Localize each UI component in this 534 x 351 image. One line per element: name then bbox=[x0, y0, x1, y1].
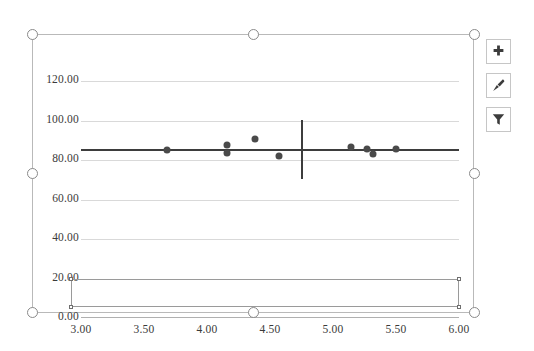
data-point[interactable] bbox=[251, 136, 258, 143]
x-axis-tick-labels: 3.003.504.004.505.005.506.00 bbox=[81, 323, 459, 339]
x-axis-tick-label: 6.00 bbox=[449, 323, 470, 335]
handle-top-left[interactable] bbox=[27, 29, 38, 40]
data-point[interactable] bbox=[347, 143, 354, 150]
handle-top-center[interactable] bbox=[248, 29, 259, 40]
axis-handle-top-left[interactable] bbox=[69, 277, 73, 281]
x-axis-tick-label: 4.00 bbox=[197, 323, 218, 335]
y-axis-tick-label: 40.00 bbox=[52, 231, 79, 243]
data-point[interactable] bbox=[275, 153, 282, 160]
x-axis-line[interactable] bbox=[81, 317, 459, 318]
x-axis-tick-label: 5.50 bbox=[386, 323, 407, 335]
screenshot-stage: 0.0020.0040.0060.0080.00100.00120.00 3.0… bbox=[0, 0, 534, 351]
y-axis-tick-label: 60.00 bbox=[52, 192, 79, 204]
x-axis-tick-label: 4.50 bbox=[260, 323, 281, 335]
axis-handle-bottom-right[interactable] bbox=[457, 305, 461, 309]
chart-filters-button[interactable] bbox=[486, 107, 511, 132]
gridline bbox=[81, 160, 459, 161]
handle-middle-left[interactable] bbox=[27, 168, 38, 179]
y-axis-tick-label: 120.00 bbox=[46, 73, 79, 85]
x-axis-tick-label: 3.00 bbox=[71, 323, 92, 335]
handle-bottom-right[interactable] bbox=[469, 307, 480, 318]
data-point[interactable] bbox=[224, 150, 231, 157]
chart-side-buttons[interactable] bbox=[486, 39, 512, 141]
data-point[interactable] bbox=[370, 151, 377, 158]
axis-handle-top-right[interactable] bbox=[457, 277, 461, 281]
data-point[interactable] bbox=[393, 145, 400, 152]
y-axis-tick-labels: 0.0020.0040.0060.0080.00100.00120.00 bbox=[1, 81, 79, 318]
x-axis-tick-label: 3.50 bbox=[134, 323, 155, 335]
paintbrush-icon bbox=[491, 78, 506, 93]
axis-handle-bottom-left[interactable] bbox=[69, 305, 73, 309]
y-axis-tick-label: 100.00 bbox=[46, 113, 79, 125]
data-point[interactable] bbox=[224, 141, 231, 148]
gridline bbox=[81, 200, 459, 201]
x-axis-tick-label: 5.00 bbox=[323, 323, 344, 335]
gridline bbox=[81, 81, 459, 82]
funnel-filter-icon bbox=[491, 112, 506, 127]
trendline[interactable] bbox=[81, 149, 459, 151]
chart-object-frame[interactable]: 0.0020.0040.0060.0080.00100.00120.00 3.0… bbox=[32, 34, 474, 313]
data-point[interactable] bbox=[163, 147, 170, 154]
handle-top-right[interactable] bbox=[469, 29, 480, 40]
vertical-reference-line[interactable] bbox=[301, 120, 303, 179]
gridline bbox=[81, 239, 459, 240]
handle-bottom-center[interactable] bbox=[248, 307, 259, 318]
chart-elements-button[interactable] bbox=[486, 39, 511, 64]
data-point[interactable] bbox=[364, 145, 371, 152]
gridline bbox=[81, 121, 459, 122]
chart-styles-button[interactable] bbox=[486, 73, 511, 98]
handle-middle-right[interactable] bbox=[469, 168, 480, 179]
y-axis-tick-label: 0.00 bbox=[58, 310, 79, 322]
handle-bottom-left[interactable] bbox=[27, 307, 38, 318]
horizontal-axis-selection[interactable] bbox=[71, 279, 459, 307]
plus-icon bbox=[491, 44, 506, 59]
y-axis-tick-label: 80.00 bbox=[52, 152, 79, 164]
